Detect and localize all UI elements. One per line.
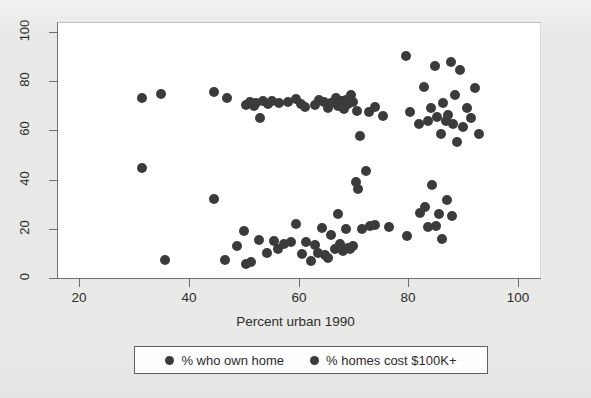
data-point (446, 57, 456, 67)
data-point (470, 83, 480, 93)
filled-circle-marker-icon (165, 356, 174, 365)
legend: % who own home % homes cost $100K+ (134, 346, 488, 374)
x-axis-title: Percent urban 1990 (0, 314, 591, 329)
y-tick-mark (49, 32, 57, 33)
data-point (474, 129, 484, 139)
data-point (232, 241, 242, 251)
y-tick-label: 20 (17, 208, 32, 248)
x-tick-mark (189, 279, 190, 287)
y-tick-label: 80 (17, 60, 32, 100)
data-point (239, 226, 249, 236)
y-tick-label: 0 (17, 257, 32, 297)
x-tick-label: 80 (385, 290, 431, 305)
legend-label: % who own home (181, 353, 284, 368)
data-point (137, 163, 147, 173)
data-point (405, 107, 415, 117)
data-point (209, 87, 219, 97)
x-tick-label: 40 (166, 290, 212, 305)
data-point (458, 122, 468, 132)
data-point (333, 209, 343, 219)
x-tick-mark (408, 279, 409, 287)
y-tick-mark (49, 81, 57, 82)
data-point (220, 255, 230, 265)
data-point (361, 166, 371, 176)
data-point (450, 90, 460, 100)
legend-entry-homes-cost[interactable]: % homes cost $100K+ (310, 353, 456, 368)
data-point (348, 241, 358, 251)
data-point (378, 111, 388, 121)
x-tick-label: 100 (495, 290, 541, 305)
data-point (286, 237, 296, 247)
data-point (384, 222, 394, 232)
data-point (462, 103, 472, 113)
y-tick-label: 100 (17, 11, 32, 51)
data-point (300, 102, 310, 112)
data-point (466, 113, 476, 123)
data-point (291, 219, 301, 229)
x-tick-mark (518, 279, 519, 287)
data-point (355, 131, 365, 141)
data-point (437, 234, 447, 244)
data-point (436, 129, 446, 139)
y-axis-line (57, 22, 58, 279)
data-point (317, 223, 327, 233)
y-tick-label: 60 (17, 109, 32, 149)
data-point (401, 51, 411, 61)
data-point (419, 82, 429, 92)
data-point (455, 65, 465, 75)
legend-entry-own-home[interactable]: % who own home (165, 353, 284, 368)
data-point (434, 209, 444, 219)
x-tick-label: 60 (276, 290, 322, 305)
y-tick-mark (49, 180, 57, 181)
data-point (306, 256, 316, 266)
x-tick-mark (79, 279, 80, 287)
data-point (423, 116, 433, 126)
y-tick-mark (49, 229, 57, 230)
data-point (255, 113, 265, 123)
y-tick-label: 40 (17, 159, 32, 199)
y-tick-mark (49, 278, 57, 279)
data-point (452, 137, 462, 147)
data-point (448, 119, 458, 129)
data-point (442, 195, 452, 205)
plot-area (57, 22, 541, 279)
scatter-plot-figure: 020406080100 20406080100 Percent urban 1… (0, 0, 591, 398)
x-tick-label: 20 (56, 290, 102, 305)
data-point (352, 106, 362, 116)
legend-label: % homes cost $100K+ (326, 353, 456, 368)
data-point (430, 61, 440, 71)
data-point (137, 93, 147, 103)
filled-circle-marker-icon (310, 356, 319, 365)
data-point (323, 253, 333, 263)
data-point (431, 221, 441, 231)
y-tick-mark (49, 130, 57, 131)
data-point (427, 180, 437, 190)
data-point (160, 255, 170, 265)
x-tick-mark (299, 279, 300, 287)
data-point (420, 202, 430, 212)
data-point (341, 224, 351, 234)
